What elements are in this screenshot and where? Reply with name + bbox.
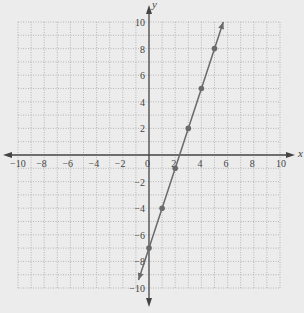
- data-point: [212, 46, 218, 52]
- y-tick-label: −2: [134, 177, 145, 188]
- x-tick-label: −6: [62, 158, 73, 169]
- data-point: [159, 205, 165, 211]
- data-point: [199, 86, 205, 92]
- y-tick-label: 8: [140, 44, 145, 55]
- x-axis-label: x: [297, 147, 303, 159]
- line-series: [139, 22, 224, 280]
- x-tick-label: −8: [36, 158, 47, 169]
- x-tick-label: 0: [145, 158, 150, 169]
- line-end-arrow-icon: [218, 22, 224, 30]
- axes: xy: [3, 0, 303, 307]
- x-tick-label: −2: [115, 158, 126, 169]
- data-point: [146, 245, 152, 251]
- line-start-arrow-icon: [138, 272, 144, 280]
- y-tick-label: 2: [140, 123, 145, 134]
- data-point: [186, 126, 192, 132]
- y-tick-label: 4: [140, 97, 145, 108]
- y-axis-bottom-arrow-icon: [146, 298, 152, 307]
- y-tick-label: −6: [134, 230, 145, 241]
- y-tick-label: 6: [140, 70, 145, 81]
- y-tick-label: −10: [129, 283, 145, 294]
- x-axis-right-arrow-icon: [286, 152, 295, 158]
- y-tick-label: −4: [134, 203, 145, 214]
- x-tick-label: 4: [197, 158, 202, 169]
- data-series: [138, 22, 224, 280]
- data-point: [172, 166, 178, 172]
- x-tick-label: 6: [224, 158, 229, 169]
- x-tick-label: 10: [276, 158, 286, 169]
- x-tick-label: −10: [10, 158, 26, 169]
- y-tick-label: 10: [135, 17, 145, 28]
- coordinate-plane: xy −10−8−6−4−20246810−10−8−6−4−2246810: [0, 0, 304, 313]
- x-tick-label: 8: [250, 158, 255, 169]
- y-axis-label: y: [151, 0, 157, 10]
- x-tick-label: −4: [89, 158, 100, 169]
